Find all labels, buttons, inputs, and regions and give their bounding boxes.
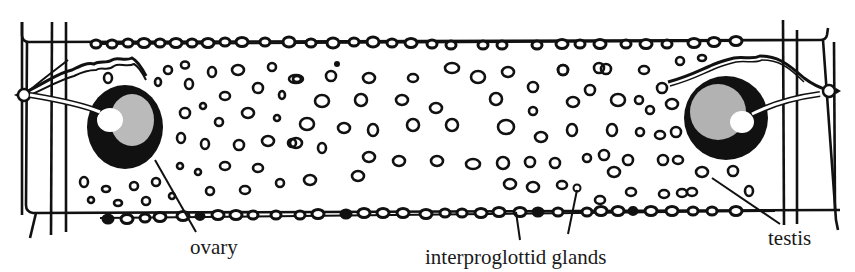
ovary-label: ovary <box>190 237 238 258</box>
proglottid-diagram <box>0 0 855 272</box>
dark-dot <box>334 61 340 67</box>
testis-label: testis <box>768 228 811 249</box>
interproglottid-glands-label: interproglottid glands <box>425 247 606 268</box>
top-gland-chain <box>90 37 742 50</box>
right-ovary <box>668 56 841 160</box>
left-ovary <box>14 58 196 232</box>
testes <box>80 55 753 206</box>
bottom-gland-chain <box>100 207 775 224</box>
